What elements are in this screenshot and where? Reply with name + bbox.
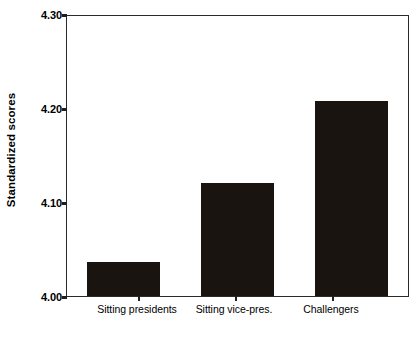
bar-chart-figure: Standardized scores 4.30 4.20 4.10 4.00 … xyxy=(0,0,420,337)
y-tick-label-4-30: 4.30 xyxy=(22,9,62,21)
bar-challengers xyxy=(315,101,388,296)
x-axis-category-labels: Sitting presidents Sitting vice-pres. Ch… xyxy=(66,303,409,323)
plot-area xyxy=(66,15,409,297)
y-axis-title: Standardized scores xyxy=(0,0,22,300)
x-label-challengers: Challengers xyxy=(303,303,358,315)
x-tick-mark-sitting-presidents xyxy=(138,296,140,301)
y-axis-tick-labels: 4.30 4.20 4.10 4.00 xyxy=(20,0,62,337)
bar-sitting-vice-pres xyxy=(201,183,274,296)
y-tick-label-4-00: 4.00 xyxy=(22,291,62,303)
y-tick-label-4-20: 4.20 xyxy=(22,103,62,115)
x-label-sitting-presidents: Sitting presidents xyxy=(97,303,177,315)
y-tick-mark-4-00 xyxy=(62,296,67,298)
y-tick-label-4-10: 4.10 xyxy=(22,197,62,209)
y-axis-title-text: Standardized scores xyxy=(5,93,17,207)
x-tick-mark-sitting-vice-pres xyxy=(235,296,237,301)
bars-layer xyxy=(67,16,408,296)
x-tick-mark-challengers xyxy=(332,296,334,301)
x-label-sitting-vice-pres: Sitting vice-pres. xyxy=(196,303,273,315)
bar-sitting-presidents xyxy=(87,262,160,296)
